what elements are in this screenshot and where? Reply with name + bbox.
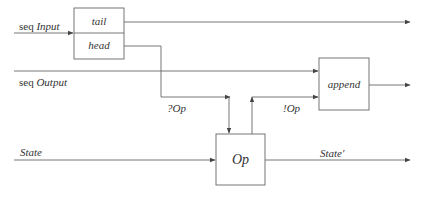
seq-input-prefix: seq (19, 20, 36, 32)
seq-output-label: seqOutput (19, 77, 67, 88)
seq-output-prefix: seq (19, 76, 36, 88)
seq-input-name: Input (36, 20, 59, 32)
head-label: head (74, 40, 124, 51)
state-prime-label: State′ (320, 148, 344, 159)
seq-input-label: seqInput (19, 21, 60, 32)
seq-output-name: Output (36, 76, 67, 88)
tail-label: tail (74, 16, 124, 27)
in-op-label: ?Op (167, 103, 186, 114)
op-label: Op (216, 153, 265, 167)
append-label: append (319, 79, 369, 90)
state-label: State (20, 147, 42, 158)
head-to-op-edge (124, 46, 230, 97)
out-op-label: !Op (283, 103, 300, 114)
diagram-canvas (0, 0, 427, 197)
